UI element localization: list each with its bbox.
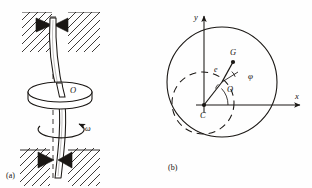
- panel-b: y x G e φ O C: [167, 12, 300, 172]
- angular-velocity-label: ω: [85, 124, 91, 133]
- bearing-center-label: C: [200, 110, 206, 120]
- panel-a-caption: (a): [6, 171, 15, 180]
- figure-svg: O ω: [0, 0, 312, 188]
- bottom-bearing: [38, 152, 72, 168]
- panel-a: O ω: [6, 6, 102, 188]
- top-right-support-hatching: [64, 6, 102, 52]
- point-g-marker: [231, 60, 235, 64]
- y-axis-label: y: [193, 12, 198, 22]
- whirl-orbit-dashed-circle: [172, 72, 234, 134]
- panel-b-caption: (b): [168, 163, 178, 172]
- line-c-to-o: [204, 82, 222, 105]
- geometric-center-label: O: [227, 84, 233, 94]
- bottom-left-support-hatching: [16, 144, 52, 188]
- disk-center-label: O: [70, 85, 76, 95]
- mass-center-label: G: [230, 47, 236, 57]
- eccentricity-label: e: [214, 65, 218, 74]
- point-c-marker: [202, 103, 206, 107]
- figure-root: O ω: [0, 0, 312, 188]
- x-axis-label: x: [294, 91, 299, 101]
- phase-angle-label: φ: [248, 71, 253, 81]
